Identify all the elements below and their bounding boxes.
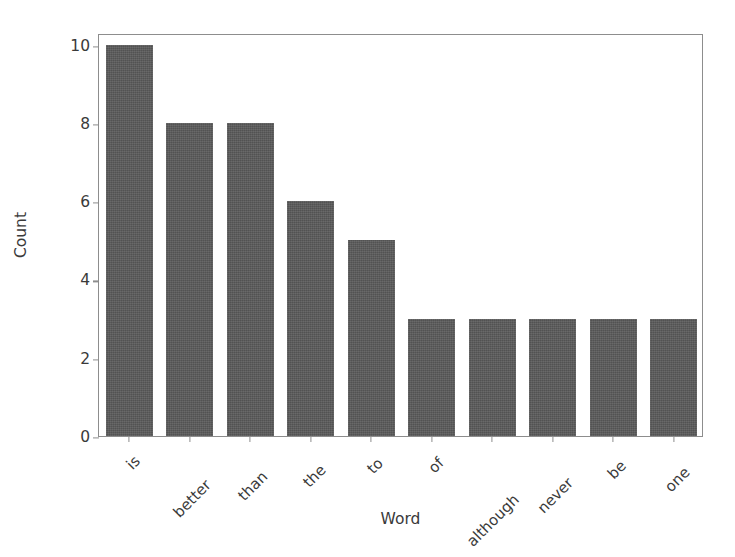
bars-layer [99,35,702,436]
x-tick-mark [310,436,311,442]
x-tick-label-text: than [236,469,271,504]
x-tick-label-text: to [365,456,386,477]
x-tick-mark [492,436,493,442]
y-tick-label: 4 [80,274,90,290]
bar [590,319,637,436]
y-tick-mark [93,359,99,360]
y-axis-label: Count [14,212,30,258]
y-tick-mark [93,281,99,282]
x-tick-label-text: be [605,458,629,482]
bar [408,319,455,436]
x-tick-mark [371,436,372,442]
x-tick-label: one [662,465,692,495]
x-tick-label-text: of [426,455,447,476]
bar [650,319,697,436]
plot-area: 0246810isbetterthanthetoofalthoughneverb… [98,34,703,437]
x-tick-label-text: is [124,453,143,472]
y-tick-label: 2 [80,352,90,368]
y-tick-label: 0 [80,430,90,446]
x-tick-label: be [605,458,629,482]
bar [287,201,334,436]
bar [166,123,213,436]
x-tick-label-text: never [535,475,576,516]
x-tick-mark [431,436,432,442]
x-tick-mark [613,436,614,442]
bar [348,240,395,436]
bar [227,123,274,436]
x-tick-label: the [301,462,329,490]
bar [529,319,576,436]
y-tick-label: 10 [70,39,90,55]
x-tick-label: than [236,469,271,504]
x-tick-mark [189,436,190,442]
bar [106,45,153,436]
y-tick-mark [93,203,99,204]
x-axis-label: Word [98,512,703,528]
y-tick-mark [93,46,99,47]
x-tick-label: to [365,456,386,477]
x-tick-mark [129,436,130,442]
x-tick-label: never [535,475,576,516]
x-tick-mark [552,436,553,442]
x-tick-mark [673,436,674,442]
x-tick-label: of [426,455,447,476]
y-tick-label: 8 [80,117,90,133]
figure-canvas: Count 0246810isbetterthanthetoofalthough… [0,0,735,557]
x-tick-label-text: one [662,465,692,495]
y-tick-mark [93,124,99,125]
x-tick-label: is [124,453,143,472]
x-tick-mark [250,436,251,442]
x-tick-label-text: the [301,462,329,490]
y-tick-mark [93,437,99,438]
y-tick-label: 6 [80,195,90,211]
bar [469,319,516,436]
